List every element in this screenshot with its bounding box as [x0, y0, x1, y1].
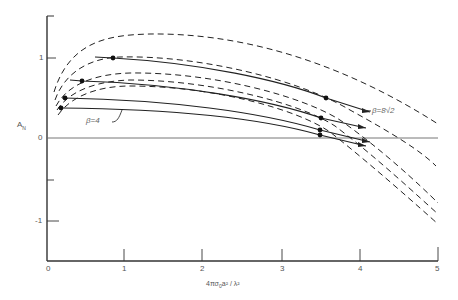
marker-dot: [324, 96, 329, 101]
y-axis-label-sub: N: [22, 125, 26, 131]
chart-plot: [0, 0, 458, 300]
annotation-beta-8root2: β=8√2: [372, 106, 395, 115]
annotation-beta-4: β=4: [86, 116, 100, 125]
x-tick-label-3: 3: [280, 264, 284, 273]
marker-dot: [111, 56, 116, 61]
y-tick-label-0: 0: [38, 133, 42, 142]
x-axis-label: 4πσ0a² / λ²: [206, 280, 240, 289]
marker-dot: [319, 116, 324, 121]
x-tick-label-5: 5: [435, 264, 439, 273]
marker-dot: [318, 133, 323, 138]
marker-dot: [59, 106, 64, 111]
x-axis-label-rest: a² / λ²: [222, 280, 240, 287]
x-tick-label-2: 2: [200, 264, 204, 273]
y-tick-label-1: 1: [39, 53, 43, 62]
arrowheads: [358, 108, 370, 147]
beta4-leader: [112, 110, 122, 122]
x-axis-label-main: 4πσ: [206, 280, 219, 287]
marker-dot: [318, 128, 323, 133]
markers: [59, 56, 329, 138]
marker-dot: [80, 79, 85, 84]
x-tick-label-1: 1: [122, 264, 126, 273]
y-tick-label-m1: -1: [35, 216, 42, 225]
marker-dot: [63, 96, 68, 101]
axes: [47, 16, 438, 261]
y-axis-label: AN: [17, 120, 26, 131]
solid-curves: [58, 57, 370, 146]
dashed-curves: [54, 34, 438, 224]
x-tick-label-0: 0: [46, 264, 50, 273]
x-tick-label-4: 4: [358, 264, 362, 273]
solid-curve-beta-4: [58, 108, 366, 146]
